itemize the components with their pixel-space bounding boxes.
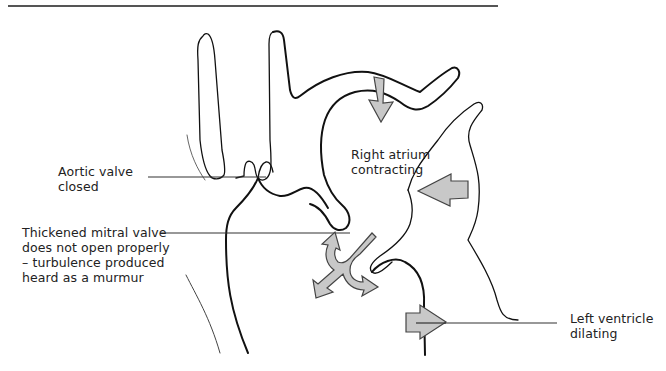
left-ventricle-label: Left ventricle dilating: [570, 311, 653, 341]
aortic-valve-label: Aortic valve closed: [58, 164, 133, 194]
left-heart-wall: [226, 178, 258, 353]
ventricle-arrow: [406, 305, 446, 339]
aortic-valve-label-line-2: closed: [58, 179, 133, 194]
mitral-valve-label: Thickened mitral valve does not open pro…: [22, 225, 170, 285]
aortic-root: [258, 178, 328, 208]
mitral-valve-label-line-4: heard as a murmur: [22, 270, 170, 285]
mitral-valve-label-line-2: does not open properly: [22, 240, 170, 255]
right-atrium-label: Right atrium contracting: [351, 147, 430, 177]
ventricle-wall: [372, 260, 425, 355]
right-atrium-outer: [408, 102, 518, 320]
left-vessel-outline: [198, 34, 225, 179]
aortic-arch-outer: [273, 31, 459, 230]
mitral-turbulence-arrow: [313, 232, 378, 298]
right-atrium-label-line-2: contracting: [351, 162, 430, 177]
left-ventricle-label-line-2: dilating: [570, 326, 653, 341]
aorta-outline: [236, 32, 273, 180]
aortic-valve-label-line-1: Aortic valve: [58, 164, 133, 179]
left-ventricle-label-line-1: Left ventricle: [570, 311, 653, 326]
mitral-valve-label-line-3: – turbulence produced: [22, 255, 170, 270]
faint-lower-wall: [186, 275, 220, 353]
right-atrium-label-line-1: Right atrium: [351, 147, 430, 162]
atrium-side-arrow: [418, 174, 468, 206]
mitral-valve-label-line-1: Thickened mitral valve: [22, 225, 170, 240]
atrium-top-arrow: [369, 77, 393, 122]
